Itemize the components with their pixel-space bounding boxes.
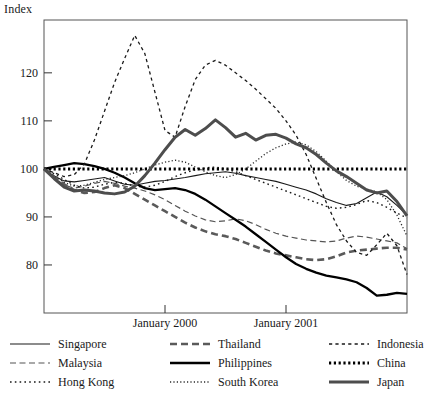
legend-item: Indonesia	[327, 334, 424, 353]
legend-swatch-icon	[168, 356, 212, 370]
legend-item: China	[327, 353, 424, 372]
legend-swatch-icon	[8, 337, 52, 351]
legend-swatch-icon	[327, 356, 371, 370]
legend-label: Philippines	[218, 356, 272, 370]
legend-label: Indonesia	[377, 337, 424, 351]
legend-label: South Korea	[218, 375, 278, 389]
legend-column-3: IndonesiaChinaJapan	[327, 334, 424, 391]
legend-item: Thailand	[168, 334, 278, 353]
legend-label: Singapore	[58, 337, 107, 351]
series-line-indonesia	[44, 35, 407, 274]
series-line-south-korea	[44, 142, 407, 236]
x-tick-label: January 2001	[254, 316, 318, 330]
line-chart-svg: 8090100110120 January 2000January 2001	[0, 0, 422, 330]
legend-swatch-icon	[168, 337, 212, 351]
legend-label: Thailand	[218, 337, 261, 351]
y-tick-label: 110	[20, 114, 38, 128]
legend-swatch-icon	[8, 356, 52, 370]
legend-swatch-icon	[327, 375, 371, 389]
y-tick-label: 100	[20, 162, 38, 176]
legend-column-1: SingaporeMalaysiaHong Kong	[8, 334, 114, 391]
legend-item: Japan	[327, 372, 424, 391]
legend-swatch-icon	[168, 375, 212, 389]
plot-area: 8090100110120 January 2000January 2001	[0, 0, 422, 330]
x-tick-label: January 2000	[133, 316, 197, 330]
y-tick-label: 90	[26, 210, 38, 224]
x-axis-ticks: January 2000January 2001	[133, 305, 318, 330]
legend-item: Philippines	[168, 353, 278, 372]
legend-item: Singapore	[8, 334, 114, 353]
legend-label: Hong Kong	[58, 375, 114, 389]
legend-swatch-icon	[8, 375, 52, 389]
legend-item: Hong Kong	[8, 372, 114, 391]
legend-item: South Korea	[168, 372, 278, 391]
legend-item: Malaysia	[8, 353, 114, 372]
chart-legend: SingaporeMalaysiaHong Kong ThailandPhili…	[0, 334, 422, 396]
legend-label: Japan	[377, 375, 404, 389]
legend-column-2: ThailandPhilippinesSouth Korea	[168, 334, 278, 391]
data-series-group	[44, 35, 407, 295]
legend-label: China	[377, 356, 406, 370]
legend-label: Malaysia	[58, 356, 102, 370]
y-tick-label: 80	[26, 258, 38, 272]
y-tick-label: 120	[20, 66, 38, 80]
legend-swatch-icon	[327, 337, 371, 351]
